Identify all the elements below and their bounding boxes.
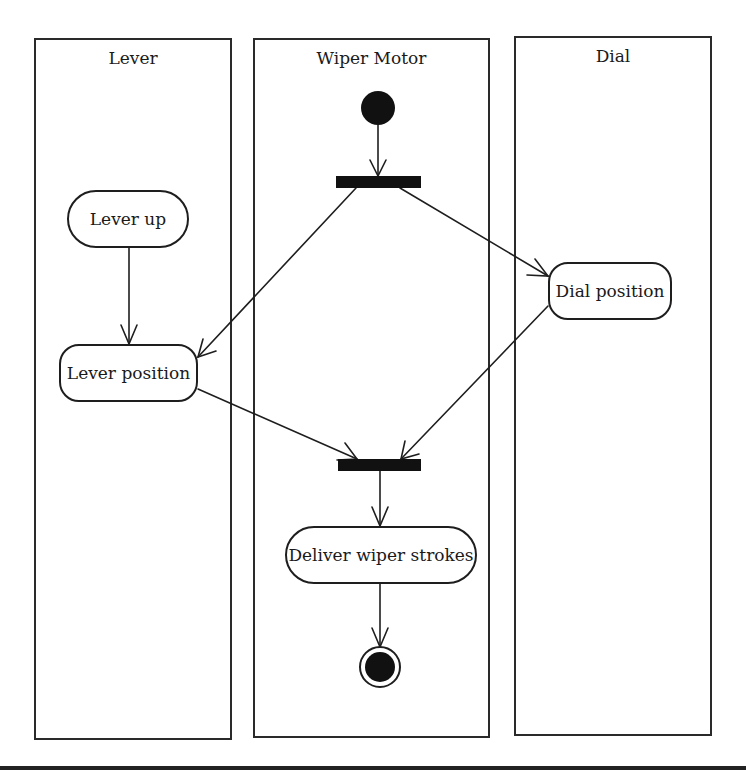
action-label: Dial position: [556, 281, 665, 301]
join-bar: [338, 459, 421, 471]
bottom-divider: [0, 766, 746, 770]
fork-bar: [336, 176, 421, 188]
action-label: Deliver wiper strokes: [288, 545, 473, 565]
action-lever-up: Lever up: [67, 190, 189, 248]
action-lever-position: Lever position: [59, 344, 198, 402]
edge-dial-position-to-join: [401, 306, 548, 459]
action-label: Lever position: [67, 363, 190, 383]
edge-initial-to-fork: [370, 125, 386, 176]
action-dial-position: Dial position: [548, 262, 672, 320]
action-label: Lever up: [90, 209, 166, 229]
edge-join-to-deliver: [372, 471, 388, 526]
edge-fork-to-dial-position: [400, 188, 548, 276]
edge-lever-up-to-lever-position: [121, 248, 137, 344]
activity-diagram: Lever Wiper Motor Dial: [0, 0, 746, 782]
edge-lever-position-to-join: [198, 389, 357, 460]
edge-fork-to-lever-position: [198, 188, 356, 357]
edge-deliver-to-final: [372, 584, 388, 647]
action-deliver-wiper-strokes: Deliver wiper strokes: [285, 526, 477, 584]
final-node: [360, 647, 400, 687]
initial-node: [361, 91, 395, 125]
